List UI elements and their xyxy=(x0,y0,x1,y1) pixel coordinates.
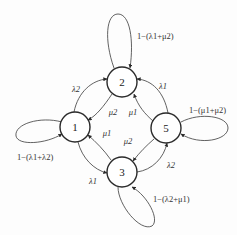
edge-label-2-to-1: μ2 xyxy=(108,107,118,117)
edge-label-5-to-2: λ1 xyxy=(158,81,167,91)
node-5-label: 5 xyxy=(163,122,169,134)
edge-label-3-to-5: λ2 xyxy=(166,160,176,170)
edge-1-to-3 xyxy=(78,142,107,173)
node-1-label: 1 xyxy=(72,121,78,133)
node-2-label: 2 xyxy=(119,76,125,88)
loop-label-node-5: 1−(μ1+μ2) xyxy=(189,105,226,115)
edge-3-to-1 xyxy=(88,135,111,160)
node-3-label: 3 xyxy=(119,166,125,178)
diagram-canvas: 2 1 5 3 λ2 λ1 μ2 μ1 μ1 μ2 λ1 λ2 1−(λ1+μ2… xyxy=(0,0,237,235)
edge-label-1-to-3: λ1 xyxy=(88,176,97,186)
node-2: 2 xyxy=(107,67,137,97)
self-loop-node-2 xyxy=(108,14,132,68)
edge-5-to-3 xyxy=(133,139,154,161)
node-1: 1 xyxy=(60,112,90,142)
self-loop-node-5 xyxy=(181,116,228,140)
loop-label-node-2: 1−(λ1+μ2) xyxy=(137,31,174,41)
edge-label-1-to-2: λ2 xyxy=(71,84,81,94)
edge-label-5-to-3: μ2 xyxy=(123,136,133,146)
edge-label-2-to-5: μ1 xyxy=(128,107,138,117)
edge-label-3-to-1: μ1 xyxy=(102,128,112,138)
state-transition-diagram: 2 1 5 3 λ2 λ1 μ2 μ1 μ1 μ2 λ1 λ2 1−(λ1+μ2… xyxy=(0,0,237,235)
loop-label-node-3: 1−(λ2+μ1) xyxy=(153,194,190,204)
loop-label-node-1: 1−(λ1+λ2) xyxy=(17,152,53,162)
edge-3-to-5 xyxy=(137,143,167,172)
node-3: 3 xyxy=(107,157,137,187)
node-5: 5 xyxy=(151,113,181,143)
self-loop-node-3 xyxy=(118,187,155,227)
self-loop-node-1 xyxy=(16,120,62,143)
